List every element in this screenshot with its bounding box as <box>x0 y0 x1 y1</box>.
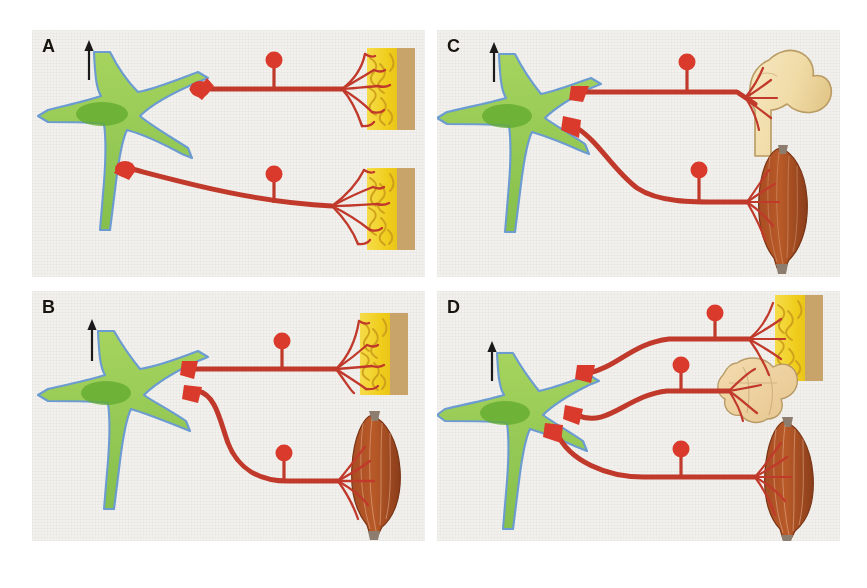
axon-lower-fiber <box>128 168 332 206</box>
neuron-cell-body <box>38 52 208 230</box>
panel-label-d: D <box>447 297 461 318</box>
ganglion-soma <box>673 357 690 374</box>
panel-a-diagram <box>32 30 425 277</box>
ganglion-cell-upper <box>274 333 291 370</box>
nucleus <box>480 401 530 425</box>
panel-d-diagram <box>437 291 840 541</box>
skin-dermis-band <box>397 168 415 250</box>
target-skin-lower <box>367 168 415 250</box>
synaptic-terminal-upper <box>180 361 198 379</box>
bone-shape <box>750 50 832 156</box>
ganglion-soma <box>707 305 724 322</box>
axon-upper <box>190 52 390 127</box>
figure-neuron-innervation-patterns: A <box>0 0 867 588</box>
skin-dermis-band <box>397 48 415 130</box>
axon-lower-fiber <box>198 391 338 481</box>
neuron-cell-body <box>38 331 208 509</box>
ganglion-cell-upper <box>266 52 283 90</box>
synaptic-terminal-lower <box>182 385 202 403</box>
target-skin <box>360 313 408 395</box>
synaptic-terminal-middle <box>563 405 583 425</box>
ganglion-soma <box>691 162 708 179</box>
target-muscle-skeletal <box>765 417 814 541</box>
target-skin-upper <box>367 48 415 130</box>
axon-lower <box>543 423 791 515</box>
direction-arrow-icon <box>487 341 496 381</box>
skin-dermis-band <box>390 313 408 395</box>
muscle-belly <box>352 415 401 535</box>
neuron-cell-body <box>437 353 599 529</box>
ganglion-soma <box>276 445 293 462</box>
panel-label-c: C <box>447 36 461 57</box>
panel-label-a: A <box>42 36 56 57</box>
target-muscle-skeletal <box>352 411 401 540</box>
target-bone-femur <box>750 50 832 156</box>
direction-arrow-icon <box>84 40 93 80</box>
panel-a: A <box>32 30 425 277</box>
ganglion-soma <box>274 333 291 350</box>
nucleus <box>81 381 131 405</box>
direction-arrow-icon <box>489 42 498 82</box>
panel-b-diagram <box>32 291 425 541</box>
axon-middle-fiber <box>577 391 729 418</box>
ganglion-cell-lower <box>691 162 708 201</box>
nucleus <box>76 102 128 126</box>
panel-c-diagram <box>437 30 840 277</box>
axon-upper-fiber <box>579 92 755 104</box>
tendon-bottom <box>781 535 793 541</box>
axon-upper <box>180 321 384 393</box>
axon-upper <box>569 54 777 131</box>
target-muscle-skeletal <box>759 145 808 274</box>
tendon-bottom <box>776 264 788 274</box>
panel-label-b: B <box>42 297 56 318</box>
ganglion-cell-lower <box>276 445 293 482</box>
tendon-bottom <box>368 531 380 540</box>
ganglion-cell-upper <box>707 305 724 340</box>
axon-lower <box>114 161 389 244</box>
ganglion-cell-upper <box>679 54 696 93</box>
axon-lower-fiber <box>577 128 747 202</box>
axon-lower <box>182 385 374 519</box>
neuron-cell-body <box>437 54 601 232</box>
ganglion-soma <box>266 52 283 69</box>
ganglion-cell-middle <box>673 357 690 392</box>
axon-upper-fiber <box>589 339 749 373</box>
axon-lower <box>561 116 779 240</box>
muscle-belly <box>759 148 808 268</box>
direction-arrow-icon <box>87 319 96 361</box>
skin-dermis-band <box>805 295 823 381</box>
ganglion-cell-lower <box>673 441 690 478</box>
ganglion-soma <box>673 441 690 458</box>
synaptic-terminal-lower <box>543 423 563 443</box>
axon-lower-fiber <box>557 433 755 477</box>
muscle-belly <box>765 421 814 539</box>
panel-b: B <box>32 291 425 541</box>
ganglion-soma <box>266 166 283 183</box>
panel-c: C <box>437 30 840 277</box>
ganglion-soma <box>679 54 696 71</box>
synaptic-terminal-upper <box>569 86 589 102</box>
panel-d: D <box>437 291 840 541</box>
nucleus <box>482 104 532 128</box>
